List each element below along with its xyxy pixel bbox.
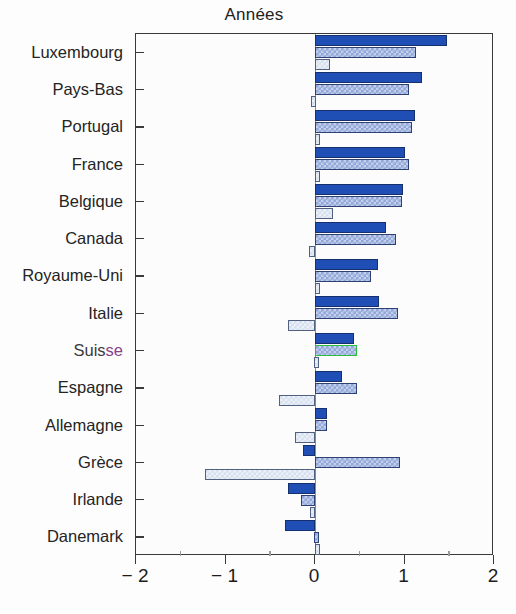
bar-serie-3-light [311,96,316,107]
bar-serie-3-light [309,246,315,257]
bar-serie-3-light [288,320,315,331]
bar-group [136,109,492,146]
y-axis-label-canada: Canada [65,229,123,248]
bar-serie-2-medium [315,308,398,319]
bar-serie-3-light [315,283,320,294]
bar-serie-3-light [310,507,315,518]
bar-serie-1-dark [315,333,354,344]
x-axis-minor-tick [359,551,360,556]
bar-group [136,258,492,295]
x-axis-minor-tick [180,551,181,556]
bar-serie-2-medium [315,234,396,245]
bar-group [136,370,492,407]
chart-title-text: Années [225,5,284,25]
y-axis-tick [135,126,144,127]
bar-serie-1-dark [315,72,422,83]
bar-serie-2-medium [315,345,357,356]
bar-serie-3-light [315,59,330,70]
bar-serie-2-medium [315,383,357,394]
y-axis-label-portugal: Portugal [62,117,123,136]
bar-serie-1-dark [315,296,379,307]
y-axis-tick [135,387,144,388]
y-axis-labels: LuxembourgPays-BasPortugalFranceBelgique… [0,33,131,555]
bar-serie-1-dark [315,408,327,419]
y-axis-label-italie: Italie [88,303,123,322]
x-axis-ticklabel: − 1 [211,565,238,587]
y-axis-tick [135,499,144,500]
y-axis-label-danemark: Danemark [47,527,123,546]
bar-serie-3-light [315,134,320,145]
x-axis-tick [135,555,136,564]
y-axis-label-luxembourg: Luxembourg [31,42,123,61]
y-axis-tick [135,350,144,351]
x-axis-ticklabel: 0 [309,565,320,587]
bar-group [136,220,492,257]
bar-serie-3-light [315,171,320,182]
bar-serie-2-medium [315,420,327,431]
bar-group [136,295,492,332]
y-axis-tick [135,201,144,202]
x-axis-tick [493,555,494,564]
bar-serie-3-light [295,432,315,443]
bar-serie-2-medium [315,196,402,207]
y-axis-label-espagne: Espagne [58,378,123,397]
x-axis-ticklabel: 2 [488,565,499,587]
y-axis-tick [135,164,144,165]
bar-serie-2-medium [301,495,315,506]
y-axis-tick [135,275,144,276]
y-axis-tick [135,238,144,239]
y-axis-label-irlande: Irlande [73,490,123,509]
y-axis-tick [135,462,144,463]
y-axis-label-suisse: Suisse [73,340,123,359]
y-axis-label-france: France [72,154,123,173]
y-axis-label-pays-bas: Pays-Bas [52,79,123,98]
y-axis-tick [135,536,144,537]
x-axis-tick [404,555,405,564]
bar-serie-2-medium [315,84,409,95]
bar-group [136,71,492,108]
y-axis-label-gr-ce: Grèce [78,452,123,471]
y-axis-tick [135,89,144,90]
bar-serie-1-dark [315,222,386,233]
bar-serie-1-dark [303,445,315,456]
bar-serie-1-dark [315,35,447,46]
bar-serie-3-light [315,544,320,555]
bar-serie-3-light [315,208,333,219]
chart-root: Années LuxembourgPays-BasPortugalFranceB… [0,0,516,614]
bar-serie-2-medium [315,159,409,170]
y-axis-tick [135,52,144,53]
bar-serie-3-light [314,357,319,368]
y-axis-label-belgique: Belgique [59,191,123,210]
x-axis-ticklabel: − 2 [122,565,149,587]
bar-serie-2-medium [315,47,416,58]
x-axis-minor-tick [448,551,449,556]
bar-serie-1-dark [315,147,405,158]
bar-group [136,332,492,369]
bar-serie-2-medium [315,457,400,468]
bar-serie-2-medium [315,122,412,133]
bar-serie-1-dark [315,184,403,195]
y-axis-tick [135,425,144,426]
x-axis-tick [314,555,315,564]
bar-group [136,519,492,556]
x-axis-ticklabel: 1 [398,565,409,587]
bar-group [136,481,492,518]
bar-serie-3-light [279,395,315,406]
bar-serie-1-dark [285,520,315,531]
bar-group [136,407,492,444]
y-axis-label-allemagne: Allemagne [45,415,123,434]
y-axis-tick [135,313,144,314]
x-axis-tick [225,555,226,564]
bar-serie-1-dark [315,371,342,382]
bar-serie-3-light [205,469,315,480]
plot-area [135,33,493,555]
bar-group [136,183,492,220]
bar-group [136,34,492,71]
bar-serie-2-medium [315,271,371,282]
bar-group [136,146,492,183]
chart-title: Années [0,5,516,25]
bar-serie-1-dark [288,483,315,494]
bar-serie-1-dark [315,110,415,121]
x-axis-minor-tick [269,551,270,556]
bar-group [136,444,492,481]
